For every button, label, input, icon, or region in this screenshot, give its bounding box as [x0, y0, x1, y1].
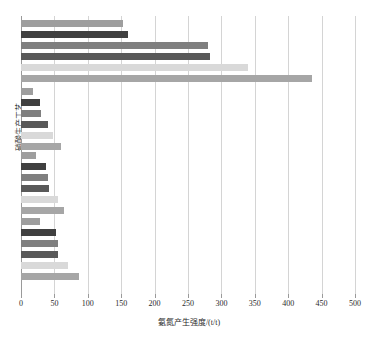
- bar: [21, 42, 208, 49]
- bar: [21, 218, 40, 225]
- bar: [21, 53, 210, 60]
- bar: [21, 99, 40, 106]
- bar: [21, 121, 48, 128]
- bar-groups: [21, 16, 355, 294]
- bar: [21, 229, 56, 236]
- bar-chart: 硝酸生产工艺 050100150200250300350400450500 氨氮…: [0, 0, 378, 338]
- plot-area: [21, 16, 355, 294]
- bar: [21, 196, 58, 203]
- x-tick: [355, 294, 356, 298]
- bar: [21, 207, 64, 214]
- x-tick: [88, 294, 89, 298]
- bar: [21, 240, 58, 247]
- bar: [21, 110, 41, 117]
- gridline: [355, 16, 356, 294]
- bar: [21, 262, 68, 269]
- x-tick: [255, 294, 256, 298]
- bar-group: [21, 218, 355, 284]
- x-tick: [21, 294, 22, 298]
- bar: [21, 273, 79, 280]
- x-tick: [121, 294, 122, 298]
- x-tick: [288, 294, 289, 298]
- bar: [21, 88, 33, 95]
- x-tick: [322, 294, 323, 298]
- bar: [21, 64, 248, 71]
- bar-group: [21, 20, 355, 86]
- x-tick: [155, 294, 156, 298]
- bar-group: [21, 88, 355, 154]
- bar-group: [21, 152, 355, 218]
- x-tick: [188, 294, 189, 298]
- bar: [21, 75, 312, 82]
- x-tick: [221, 294, 222, 298]
- x-tick-label: 500: [335, 299, 375, 308]
- bar: [21, 174, 48, 181]
- bar: [21, 251, 58, 258]
- x-axis-title: 氨氮产生强度/(t/t): [0, 316, 378, 327]
- bar: [21, 152, 36, 159]
- bar: [21, 31, 128, 38]
- bar: [21, 163, 46, 170]
- bar: [21, 143, 61, 150]
- x-tick: [54, 294, 55, 298]
- bar: [21, 185, 49, 192]
- bar: [21, 132, 53, 139]
- bar: [21, 20, 123, 27]
